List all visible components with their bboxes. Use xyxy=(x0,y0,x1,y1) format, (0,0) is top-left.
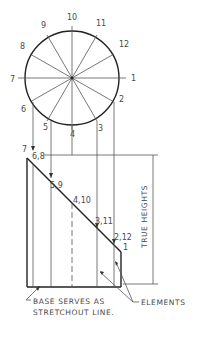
label-front-4-10: 4,10 xyxy=(73,196,91,205)
base-note-line1: BASE SERVES AS xyxy=(33,297,105,306)
label-front-1: 1 xyxy=(123,243,128,252)
center-point xyxy=(71,77,74,80)
label-front-3-11: 3,11 xyxy=(95,217,113,226)
true-heights-label: TRUE HEIGHTS xyxy=(140,185,149,249)
arrow-head-icon xyxy=(49,173,53,178)
label-10: 10 xyxy=(67,13,77,22)
label-1: 1 xyxy=(131,74,136,83)
label-4: 4 xyxy=(70,130,75,139)
front-view-truncated-cylinder: 7 6,8 5,9 4,10 3,11 2,12 1 xyxy=(22,145,132,287)
label-2: 2 xyxy=(119,95,124,104)
label-12: 12 xyxy=(119,40,129,49)
diagram-canvas: 1 2 3 4 5 6 7 8 9 10 11 12 xyxy=(0,0,204,338)
label-3: 3 xyxy=(98,124,103,133)
label-8: 8 xyxy=(20,42,25,51)
label-5: 5 xyxy=(43,123,48,132)
label-9: 9 xyxy=(41,21,46,30)
truncated-cylinder-development-diagram: 1 2 3 4 5 6 7 8 9 10 11 12 xyxy=(0,0,204,338)
cut-plane-edge xyxy=(27,158,121,252)
label-front-5-9: 5,9 xyxy=(50,181,63,190)
elements-leader-2 xyxy=(116,262,133,302)
label-front-7: 7 xyxy=(22,145,27,154)
label-front-6-8: 6,8 xyxy=(32,152,45,161)
leader-notes: BASE SERVES AS STRETCHOUT LINE. ELEMENTS xyxy=(26,261,186,317)
base-note-line2: STRETCHOUT LINE. xyxy=(33,308,114,317)
label-front-2-12: 2,12 xyxy=(114,233,132,242)
top-view-circle: 1 2 3 4 5 6 7 8 9 10 11 12 xyxy=(10,13,136,139)
elements-note: ELEMENTS xyxy=(141,298,186,307)
label-11: 11 xyxy=(96,19,106,28)
arrow-head-icon xyxy=(31,146,35,151)
label-6: 6 xyxy=(21,105,26,114)
label-7: 7 xyxy=(10,75,15,84)
